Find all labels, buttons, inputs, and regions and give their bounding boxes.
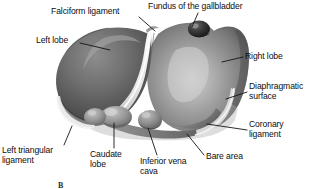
inferior-vena-cava-highlight [142,112,151,118]
caudate-lobe-highlight [105,108,118,116]
papillary-process-shape [84,108,106,126]
label-left-triangular-ligament: Left triangular ligament [2,146,53,166]
label-diaphragmatic-surface: Diaphragmatic surface [249,82,303,102]
leader-left-triangular-ligament [64,126,72,145]
label-fundus-of-the-gallbladder: Fundus of the gallbladder [148,2,243,12]
papillary-process-highlight [88,110,96,116]
interlobar-notch [146,26,159,33]
liver-body [56,21,249,141]
label-left-lobe: Left lobe [36,36,68,46]
label-coronary-ligament: Coronary ligament [249,120,284,140]
leader-falciform-ligament [139,17,155,31]
inferior-vena-cava-shape [138,110,162,130]
liver-anatomy-figure: Falciform ligament Fundus of the gallbla… [0,0,317,189]
label-caudate-lobe: Caudate lobe [90,150,122,170]
label-falciform-ligament: Falciform ligament [51,7,119,17]
label-inferior-vena-cava: Inferior vena cava [140,157,186,177]
label-bare-area: Bare area [206,152,243,162]
figure-caption: B [58,181,70,189]
label-right-lobe: Right lobe [245,52,283,62]
